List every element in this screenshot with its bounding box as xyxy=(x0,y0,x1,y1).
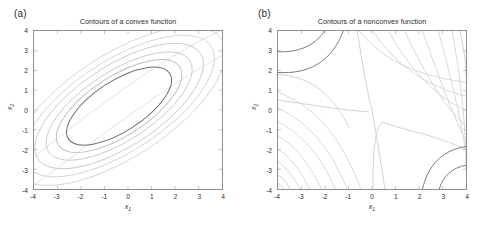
panel-a-xtick: -3 xyxy=(54,193,60,200)
panel-a: (a) Contours of a convex function xyxy=(0,0,244,225)
panel-a-xtick: 0 xyxy=(126,193,130,200)
panel-b-xaxis-label-sub: 1 xyxy=(372,206,375,212)
panel-a-ytick: 2 xyxy=(24,67,28,74)
panel-b-xtick: 4 xyxy=(465,193,469,200)
panel-b-plot-area xyxy=(277,30,467,190)
panel-a-xtick: -2 xyxy=(78,193,84,200)
panel-a-ytick: -3 xyxy=(22,167,28,174)
panel-a-xtick: -1 xyxy=(101,193,107,200)
panel-a-xtick: 1 xyxy=(150,193,154,200)
panel-a-ytick: 4 xyxy=(24,27,28,34)
panel-a-ytick: 3 xyxy=(24,47,28,54)
panel-b-yaxis-label-sub: 2 xyxy=(253,104,259,107)
panel-b-ytick: -1 xyxy=(266,127,272,134)
panel-a-ytick: -4 xyxy=(22,187,28,194)
panel-a-xaxis-label-sub: 1 xyxy=(128,206,131,212)
panel-b-yaxis-ticks: 4 3 2 1 0 -1 -2 -3 -4 xyxy=(244,30,275,190)
panel-a-ytick: 1 xyxy=(24,87,28,94)
panel-b-ytick: 0 xyxy=(268,107,272,114)
panel-b-ytick: 1 xyxy=(268,87,272,94)
panel-a-xtick: 3 xyxy=(197,193,201,200)
panel-b-xtick: -2 xyxy=(322,193,328,200)
panel-a-xaxis-label: x1 xyxy=(33,203,223,212)
panel-a-ytick: -1 xyxy=(22,127,28,134)
panel-b-contours xyxy=(278,31,466,189)
panel-b-yaxis-label-base: x xyxy=(250,107,257,111)
panel-b-contour-svg xyxy=(278,31,466,189)
panel-b-title: Contours of a nonconvex function xyxy=(277,17,467,26)
panel-b-ytick: 2 xyxy=(268,67,272,74)
panel-b-ytick: -3 xyxy=(266,167,272,174)
panel-b-xaxis-label: x1 xyxy=(277,203,467,212)
panel-b-xtick: 0 xyxy=(370,193,374,200)
panel-b-ytick: -2 xyxy=(266,147,272,154)
panel-a-xtick: 2 xyxy=(174,193,178,200)
panel-b-xtick: 2 xyxy=(418,193,422,200)
panel-b-ytick: 4 xyxy=(268,27,272,34)
panel-a-yaxis-label-base: x xyxy=(6,107,13,111)
panel-b-ytick: 3 xyxy=(268,47,272,54)
contour-figure: (a) Contours of a convex function xyxy=(0,0,489,225)
panel-b-yaxis-label: x2 xyxy=(250,104,259,110)
panel-a-plot-area xyxy=(33,30,223,190)
panel-a-xtick: -4 xyxy=(30,193,36,200)
panel-b-xtick: 1 xyxy=(394,193,398,200)
panel-b-xtick: 3 xyxy=(441,193,445,200)
panel-b-xtick: -1 xyxy=(345,193,351,200)
panel-a-yaxis-label-sub: 2 xyxy=(9,104,15,107)
panel-b-label: (b) xyxy=(258,8,271,19)
panel-b-xtick: -4 xyxy=(274,193,280,200)
panel-b-ytick: -4 xyxy=(266,187,272,194)
panel-a-yaxis-label: x2 xyxy=(6,104,15,110)
panel-a-contours xyxy=(34,31,222,189)
panel-b-xtick: -3 xyxy=(298,193,304,200)
panel-a-ytick: -2 xyxy=(22,147,28,154)
panel-a-ytick: 0 xyxy=(24,107,28,114)
panel-a-xtick: 4 xyxy=(221,193,225,200)
panel-a-label: (a) xyxy=(14,8,27,19)
panel-a-yaxis-ticks: 4 3 2 1 0 -1 -2 -3 -4 xyxy=(0,30,31,190)
panel-b: (b) Contours of a nonconvex function xyxy=(244,0,488,225)
panel-a-title: Contours of a convex function xyxy=(33,17,223,26)
panel-a-contour-svg xyxy=(34,31,222,189)
